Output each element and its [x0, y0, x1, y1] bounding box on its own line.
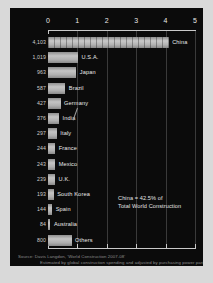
bar-value-label: 144 — [37, 206, 46, 212]
annotation-line-2: Total World Construction — [118, 202, 181, 210]
bar-value-label: 963 — [37, 69, 46, 75]
bar — [48, 37, 169, 48]
tick-label-0: 0 — [46, 17, 50, 24]
bar-value-label: 587 — [37, 85, 46, 91]
bar-value-label: 244 — [37, 145, 46, 151]
bar-category-label: Brazil — [69, 85, 84, 91]
bar-value-label: 84 — [40, 221, 46, 227]
bar-value-label: 193 — [37, 191, 46, 197]
bar — [48, 128, 57, 139]
bar — [48, 143, 55, 154]
bar-value-label: 427 — [37, 100, 46, 106]
axis-line-top — [48, 30, 196, 31]
tick-label-2: 2 — [105, 17, 109, 24]
annotation-line-1: China = 42.5% of — [118, 194, 181, 202]
bar-category-label: Australia — [54, 221, 77, 227]
bar-value-label: 243 — [37, 161, 46, 167]
chart-container: 012345 4,103China1,019U.S.A.963Japan587B… — [10, 8, 203, 266]
bar-category-label: Others — [75, 237, 93, 243]
bar — [48, 113, 59, 124]
source-note: Source: Davis Langdon, 'World Constructi… — [18, 254, 203, 266]
tick-label-3: 3 — [134, 17, 138, 24]
tick-label-5: 5 — [193, 17, 197, 24]
bar — [48, 174, 55, 185]
bar — [48, 52, 78, 63]
bar-category-label: U.S.A. — [81, 54, 98, 60]
bar — [48, 219, 50, 230]
bar-value-label: 800 — [37, 237, 46, 243]
bar-category-label: Japan — [80, 69, 96, 75]
bar — [48, 159, 55, 170]
tick-label-4: 4 — [164, 17, 168, 24]
bar-category-label: France — [59, 145, 77, 151]
bar — [48, 189, 54, 200]
bar-category-label: Italy — [60, 130, 71, 136]
bar-category-label: Germany — [64, 100, 88, 106]
bar-category-label: South Korea — [57, 191, 90, 197]
bar-value-label: 239 — [37, 176, 46, 182]
bar-row: 800Others — [10, 233, 203, 250]
bar-category-label: Mexico — [59, 161, 78, 167]
tick-label-1: 1 — [75, 17, 79, 24]
bar-value-label: 297 — [37, 130, 46, 136]
bar-value-label: 376 — [37, 115, 46, 121]
bar — [48, 235, 72, 246]
tick-top-0 — [48, 30, 49, 34]
bar-category-label: Spain — [56, 206, 71, 212]
bar-value-label: 4,103 — [33, 39, 46, 45]
bar — [48, 98, 61, 109]
bar-value-label: 1,019 — [33, 54, 46, 60]
china-share-annotation: China = 42.5% of Total World Constructio… — [118, 194, 181, 210]
bar — [48, 83, 65, 94]
source-line-2: Estimated by global construction spendin… — [18, 260, 203, 266]
bar-category-label: China — [172, 39, 187, 45]
bar — [48, 204, 52, 215]
bar — [48, 67, 76, 78]
bar-category-label: U.K. — [59, 176, 70, 182]
